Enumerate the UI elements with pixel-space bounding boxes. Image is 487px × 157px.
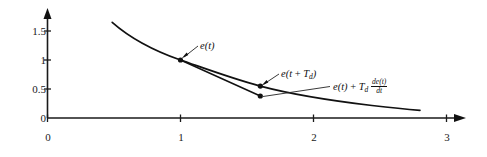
- curve-error-signal: [112, 22, 420, 110]
- y-tick-label-1.5: 1.5: [32, 26, 46, 37]
- x-tick-label-1: 1: [173, 132, 189, 143]
- annotation-tangent-denominator: dt: [371, 86, 387, 95]
- annotation-advance-close: ): [313, 68, 317, 79]
- x-tick-label-3: 3: [439, 132, 455, 143]
- annotation-advance-label: e(t + Td): [281, 68, 316, 81]
- x-axis-arrow-icon: [454, 114, 466, 122]
- leader-arrow-curve-label: [182, 53, 189, 59]
- annotation-curve-close: ): [211, 40, 215, 51]
- plot-svg: [0, 0, 487, 157]
- x-tick-label-0: 0: [40, 132, 56, 143]
- annotation-tangent-label: e(t) + Td de(t)dt: [333, 78, 387, 95]
- y-tick-label-1: 1: [41, 55, 47, 66]
- leader-arrow-advance-label: [261, 80, 268, 86]
- annotation-tangent-numerator: de(t): [371, 78, 387, 86]
- figure-canvas: 1.5 1 0.5 0 0 1 2 3 e(t) e(t + Td) e(t) …: [0, 0, 487, 157]
- line-derivative-extrapolation: [181, 60, 261, 96]
- point-linear-prediction: [258, 93, 263, 98]
- x-tick-label-2: 2: [306, 132, 322, 143]
- y-tick-label-0.5: 0.5: [32, 84, 46, 95]
- y-tick-label-0: 0: [41, 113, 47, 124]
- point-e-of-t-plus-td: [258, 84, 263, 89]
- annotation-curve-label: e(t): [200, 40, 215, 51]
- y-axis-arrow-icon: [44, 8, 52, 19]
- annotation-tangent-fraction: de(t)dt: [371, 78, 387, 95]
